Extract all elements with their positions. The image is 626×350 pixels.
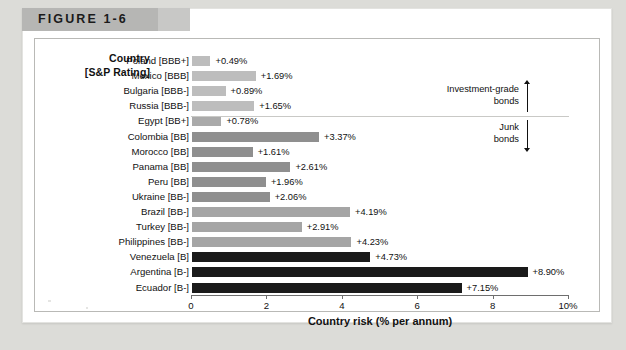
- bar-value-label: +4.23%: [356, 235, 388, 249]
- bar: [192, 222, 302, 232]
- category-label: Colombia [BB]: [44, 130, 189, 144]
- category-label: Ukraine [BB-]: [44, 190, 189, 204]
- bar-rows: Poland [BBB+]+0.49%Mexico [BBB]+1.69%Bul…: [0, 0, 626, 350]
- bar-value-label: +4.19%: [355, 205, 387, 219]
- bar: [192, 252, 370, 262]
- x-axis-tick-label: 0: [188, 300, 193, 311]
- category-label: Philippines [BB-]: [44, 235, 189, 249]
- arrow-down-icon: [524, 148, 530, 152]
- bar: [192, 267, 528, 277]
- investment-grade-label-line2: bonds: [404, 96, 519, 108]
- category-label: Egypt [BB+]: [44, 114, 189, 128]
- scan-speckle: [48, 300, 51, 302]
- bar-value-label: +1.69%: [261, 69, 293, 83]
- bar: [192, 132, 319, 142]
- category-label: Poland [BBB+]: [44, 54, 189, 68]
- x-axis-line: [191, 295, 569, 296]
- category-label: Argentina [B-]: [44, 265, 189, 279]
- category-label: Mexico [BBB]: [44, 69, 189, 83]
- scan-speckle: [86, 307, 88, 309]
- bar: [192, 56, 210, 66]
- investment-grade-bracket-bar: [527, 84, 528, 112]
- category-label: Ecuador [B-]: [44, 281, 189, 295]
- bar-value-label: +2.91%: [307, 220, 339, 234]
- x-axis-tick: [342, 295, 343, 299]
- bar-value-label: +3.37%: [324, 130, 356, 144]
- bar-value-label: +8.90%: [533, 265, 565, 279]
- bar-value-label: +1.96%: [271, 175, 303, 189]
- category-label: Russia [BBB-]: [44, 99, 189, 113]
- x-axis-tick-label: 10%: [558, 300, 577, 311]
- bar-value-label: +1.65%: [259, 99, 291, 113]
- investment-grade-label-line1: Investment-grade: [404, 84, 519, 96]
- x-axis-tick-label: 4: [339, 300, 344, 311]
- bar-value-label: +4.73%: [375, 250, 407, 264]
- x-axis-tick-label: 6: [415, 300, 420, 311]
- grade-separator-line: [191, 116, 569, 117]
- bar-value-label: +7.15%: [467, 281, 499, 295]
- arrow-up-icon: [524, 80, 530, 84]
- figure-page: FIGURE 1-6 Country [S&P Rating] Poland […: [0, 0, 626, 350]
- x-axis-caption: Country risk (% per annum): [191, 315, 569, 327]
- bar: [192, 207, 350, 217]
- bar: [192, 71, 256, 81]
- junk-bonds-label: Junk bonds: [404, 122, 519, 145]
- x-axis-tick: [191, 295, 192, 299]
- bar: [192, 162, 290, 172]
- bar: [192, 237, 351, 247]
- junk-bonds-label-line2: bonds: [404, 134, 519, 146]
- bar: [192, 283, 462, 293]
- category-label: Bulgaria [BBB-]: [44, 84, 189, 98]
- category-label: Panama [BB]: [44, 160, 189, 174]
- category-label: Venezuela [B]: [44, 250, 189, 264]
- x-axis-tick-label: 2: [264, 300, 269, 311]
- x-axis-tick-label: 8: [490, 300, 495, 311]
- x-axis-tick: [568, 295, 569, 299]
- bar-value-label: +0.49%: [215, 54, 247, 68]
- bar: [192, 116, 221, 126]
- bar-value-label: +1.61%: [258, 145, 290, 159]
- category-label: Morocco [BB]: [44, 145, 189, 159]
- x-axis-tick: [266, 295, 267, 299]
- bar-value-label: +2.61%: [295, 160, 327, 174]
- bar-value-label: +2.06%: [275, 190, 307, 204]
- x-axis-tick: [417, 295, 418, 299]
- category-label: Brazil [BB-]: [44, 205, 189, 219]
- bar: [192, 177, 266, 187]
- x-axis-tick: [493, 295, 494, 299]
- bar: [192, 147, 253, 157]
- category-label: Turkey [BB-]: [44, 220, 189, 234]
- category-label: Peru [BB]: [44, 175, 189, 189]
- bar: [192, 86, 226, 96]
- bar: [192, 192, 270, 202]
- junk-bonds-label-line1: Junk: [404, 122, 519, 134]
- bar: [192, 101, 254, 111]
- junk-bonds-bracket-bar: [527, 120, 528, 148]
- investment-grade-label: Investment-grade bonds: [404, 84, 519, 107]
- bar-value-label: +0.89%: [231, 84, 263, 98]
